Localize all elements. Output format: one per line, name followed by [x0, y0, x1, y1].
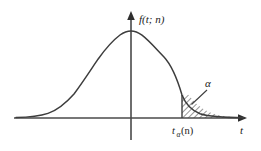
figure-container: f(t; n) t α t α (n): [0, 0, 261, 151]
t-distribution-figure: f(t; n) t α t α (n): [0, 0, 261, 151]
tail-area-label: α: [205, 77, 211, 89]
t-density-curve: [16, 31, 244, 118]
critical-value-argument: (n): [181, 125, 194, 137]
critical-value-base: t: [172, 125, 176, 136]
alpha-leader-line: [192, 90, 208, 105]
x-axis-label: t: [240, 124, 244, 136]
critical-value-label: t α (n): [172, 125, 194, 139]
y-axis-arrow-icon: [127, 11, 135, 20]
y-axis-label: f(t; n): [139, 13, 165, 26]
